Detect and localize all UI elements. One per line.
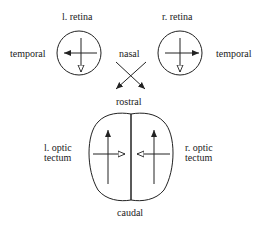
left-retina-label: l. retina: [62, 11, 93, 22]
right-retina-label: r. retina: [162, 11, 193, 22]
caudal-label: caudal: [117, 207, 143, 218]
left-tectum-label-line2: tectum: [44, 152, 71, 163]
optic-chiasm-arrows: [116, 62, 146, 89]
nasal-label: nasal: [119, 48, 140, 59]
right-tectum-label-line2: tectum: [185, 152, 212, 163]
rostral-label: rostral: [116, 96, 142, 107]
left-temporal-label: temporal: [10, 48, 46, 59]
optic-tectum: [89, 113, 173, 201]
right-retina: [158, 31, 202, 75]
left-retina: [57, 31, 101, 75]
right-temporal-label: temporal: [216, 48, 252, 59]
retinotectal-diagram: [0, 0, 262, 228]
